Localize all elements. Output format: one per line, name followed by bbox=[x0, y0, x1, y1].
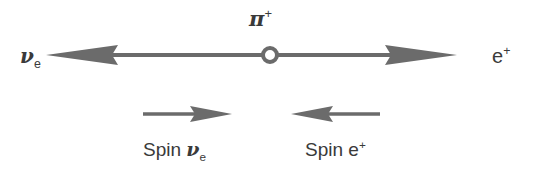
positron-spin-prefix: Spin bbox=[305, 139, 348, 160]
neutrino-label: νe bbox=[20, 46, 41, 66]
positron-label: e+ bbox=[492, 46, 510, 66]
pion-decay-diagram: π+ νe e+ Spin νe Spin e+ bbox=[0, 0, 533, 175]
positron-momentum-arrowhead-icon bbox=[385, 45, 457, 65]
positron-spin-arrowhead-icon bbox=[291, 106, 333, 122]
positron-symbol: e bbox=[492, 45, 503, 67]
decay-vertex-circle-icon bbox=[263, 48, 277, 62]
pion-charge-superscript: + bbox=[264, 6, 272, 21]
pion-symbol: π bbox=[249, 6, 264, 31]
neutrino-spin-prefix: Spin bbox=[143, 139, 186, 160]
neutrino-spin-symbol: ν bbox=[186, 138, 199, 160]
positron-charge-superscript: + bbox=[503, 44, 510, 58]
positron-spin-symbol: e bbox=[348, 139, 359, 160]
positron-spin-label: Spin e+ bbox=[305, 140, 366, 159]
positron-spin-charge-superscript: + bbox=[359, 138, 366, 151]
neutrino-symbol: ν bbox=[20, 44, 34, 68]
neutrino-spin-label: Spin νe bbox=[143, 140, 206, 159]
neutrino-flavor-subscript: e bbox=[34, 57, 41, 71]
neutrino-spin-flavor-subscript: e bbox=[200, 150, 207, 163]
neutrino-spin-arrowhead-icon bbox=[190, 106, 232, 122]
pion-label: π+ bbox=[249, 8, 272, 29]
neutrino-momentum-arrowhead-icon bbox=[46, 45, 118, 65]
